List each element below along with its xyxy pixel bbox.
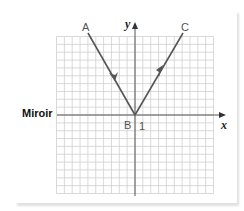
y-axis-label: y	[123, 17, 131, 31]
x-axis-label: x	[220, 118, 227, 132]
point-b-label: B	[124, 119, 131, 131]
reflection-diagram: A B C 1 y x	[0, 0, 244, 211]
tick-label: 1	[139, 120, 145, 132]
reflected-arrow-icon	[156, 65, 163, 77]
y-axis-arrow-icon	[132, 22, 138, 29]
point-c-label: C	[181, 21, 189, 33]
point-a-label: A	[82, 21, 90, 33]
